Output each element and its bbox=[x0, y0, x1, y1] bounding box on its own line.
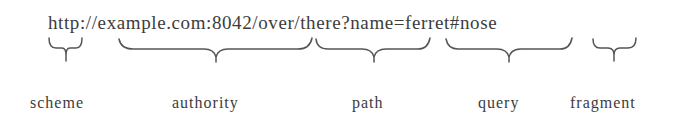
label-fragment: fragment bbox=[570, 94, 636, 112]
scheme-brace-icon bbox=[49, 38, 82, 61]
label-scheme: scheme bbox=[30, 94, 84, 112]
label-query: query bbox=[478, 94, 519, 112]
label-authority: authority bbox=[172, 94, 239, 112]
fragment-brace-icon bbox=[593, 38, 636, 61]
path-brace-icon bbox=[316, 38, 430, 62]
label-path: path bbox=[352, 94, 384, 112]
authority-brace-icon bbox=[119, 38, 312, 62]
query-brace-icon bbox=[446, 38, 572, 62]
